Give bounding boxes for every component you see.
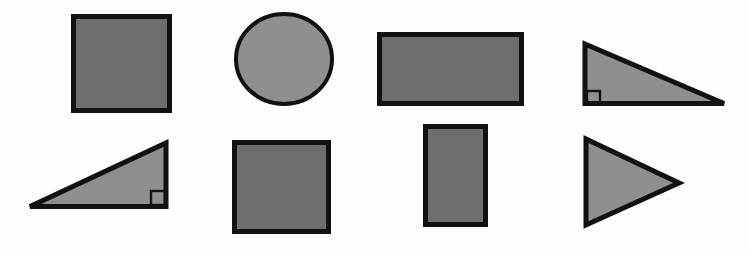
shape-canvas: [0, 0, 748, 254]
shape-square-bottom: [235, 143, 329, 232]
shape-right-triangle-top-right: [585, 44, 724, 104]
shape-square-top-left: [74, 17, 170, 111]
geometric-shapes-figure: [0, 0, 748, 254]
shape-rectangle-landscape: [380, 35, 522, 104]
shape-right-triangle-bottom-left: [30, 143, 166, 207]
shape-triangle-pointing-right: [586, 139, 679, 225]
shape-rectangle-portrait: [426, 127, 486, 225]
shape-circle: [236, 14, 332, 104]
